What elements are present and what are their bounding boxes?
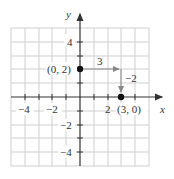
rise-label: −2 <box>125 72 137 84</box>
y-axis-label: y <box>65 8 71 20</box>
point-0-2 <box>77 66 83 72</box>
point-label: (0, 2) <box>47 63 71 76</box>
point-3-0 <box>118 94 124 100</box>
x-tick-label: 2 <box>105 103 111 115</box>
point-label: (3, 0) <box>117 103 141 116</box>
y-tick-label: −4 <box>60 146 72 158</box>
x-axis-label: x <box>159 103 165 115</box>
y-tick-label: 4 <box>67 36 73 48</box>
x-tick-label: −2 <box>46 103 58 115</box>
coordinate-plane: x y −4 −2 2 4 −2 −4 3 −2 (0, 2) (3, 0) <box>0 0 174 179</box>
run-label: 3 <box>97 55 103 67</box>
x-tick-label: −4 <box>18 103 30 115</box>
y-tick-label: −2 <box>60 119 72 131</box>
